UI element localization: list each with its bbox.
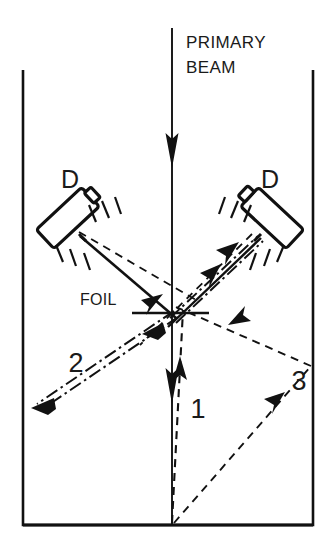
detector-left-radiation-line-4 bbox=[56, 245, 63, 262]
trajectory-1-segment bbox=[172, 310, 183, 523]
trajectory-2-label: 2 bbox=[68, 348, 83, 378]
trajectory-1-label: 1 bbox=[190, 394, 205, 424]
detector-left-label: D bbox=[61, 165, 79, 193]
trajectory-1-path bbox=[172, 310, 187, 523]
detector-right-radiation-line-3 bbox=[219, 197, 225, 214]
diagram-canvas: PRIMARY BEAM bbox=[0, 0, 332, 552]
foil-label: FOIL bbox=[80, 291, 117, 308]
detector-left-radiation-line-3 bbox=[115, 197, 121, 214]
detector-right-radiation-line-5 bbox=[264, 249, 270, 266]
detector-right-label: D bbox=[261, 165, 279, 193]
detector-left-radiation-line-5 bbox=[70, 249, 76, 266]
trajectory-2-path bbox=[31, 311, 178, 415]
detector-left-radiation-line-6 bbox=[84, 253, 90, 270]
trajectory-2-line-a bbox=[37, 311, 174, 404]
primary-beam-label-line1: PRIMARY bbox=[186, 33, 266, 52]
trajectory-3-arrowhead-incoming bbox=[264, 392, 285, 414]
detector-right-dashdot-b bbox=[176, 241, 263, 323]
trajectory-3-arrowhead-outgoing bbox=[228, 306, 251, 325]
detector-right-radiation-line-4 bbox=[277, 245, 284, 262]
scattering-chamber-figure: PRIMARY BEAM bbox=[0, 0, 332, 552]
trajectory-3-label: 3 bbox=[291, 366, 306, 396]
detector-left-dashed-sightline bbox=[79, 232, 196, 300]
detector-right-radiation-line-2 bbox=[231, 201, 238, 218]
detector-right-radiation-line-6 bbox=[250, 253, 256, 270]
trajectory-3-incoming-segment bbox=[174, 366, 311, 523]
primary-beam-label-line2: BEAM bbox=[186, 58, 236, 77]
detector-left-radiation-line-2 bbox=[102, 201, 109, 218]
